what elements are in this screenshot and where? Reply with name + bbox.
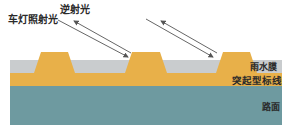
marking-bump-1 <box>34 52 75 73</box>
marking-bump-2 <box>125 52 167 73</box>
road-surface-layer <box>10 86 282 125</box>
headlight-ray-2 <box>146 19 213 57</box>
water-film-label: 雨水膜 <box>250 62 277 73</box>
retro-ray-2 <box>161 21 217 53</box>
headlight-label: 车灯照射光 <box>8 14 58 25</box>
retroreflection-diagram: 车灯照射光 逆射光 雨水膜 突起型标线 路面 <box>0 0 288 132</box>
headlight-ray-1 <box>58 20 128 57</box>
retro-ray-1 <box>74 21 131 53</box>
retroreflected-label: 逆射光 <box>60 4 90 15</box>
raised-marking-label: 突起型标线 <box>232 75 282 86</box>
road-surface-label: 路面 <box>262 102 280 113</box>
